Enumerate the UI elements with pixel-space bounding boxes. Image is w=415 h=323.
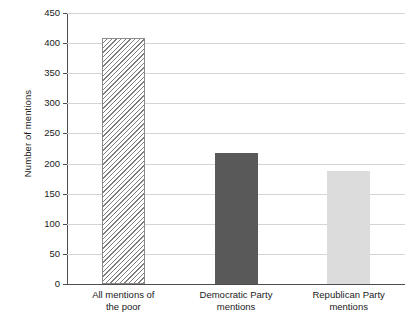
y-tick-label: 450 <box>0 8 60 18</box>
y-tick-label: 100 <box>0 219 60 229</box>
y-tick-mark <box>63 284 67 285</box>
y-tick-label: 400 <box>0 38 60 48</box>
bars-group <box>67 13 405 284</box>
x-axis-label-3: Republican Partymentions <box>279 289 415 313</box>
bar-chart: Number of mentions 050100150200250300350… <box>0 0 415 323</box>
y-tick-label: 300 <box>0 99 60 109</box>
bar-2 <box>215 153 258 284</box>
y-tick-label: 0 <box>0 279 60 289</box>
x-axis-label-line: mentions <box>279 301 415 313</box>
y-tick-label: 250 <box>0 129 60 139</box>
y-tick-label: 200 <box>0 159 60 169</box>
y-tick-label: 150 <box>0 189 60 199</box>
y-tick-label: 350 <box>0 68 60 78</box>
bar-3 <box>327 171 370 284</box>
x-axis-label-line: Republican Party <box>279 289 415 301</box>
x-axis-line <box>67 284 405 285</box>
bar-1 <box>102 38 145 284</box>
y-tick-label: 50 <box>0 249 60 259</box>
